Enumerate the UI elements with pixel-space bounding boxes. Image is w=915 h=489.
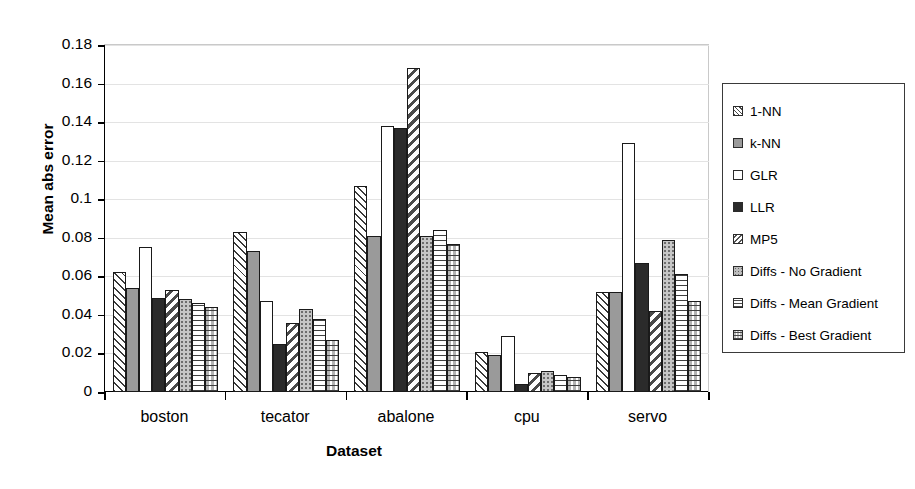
- bar: [126, 288, 139, 392]
- bar: [675, 274, 688, 392]
- bar: [247, 251, 260, 392]
- y-tick-label: 0.1: [28, 189, 92, 207]
- bar: [152, 298, 165, 392]
- legend-swatch-icon: [733, 170, 743, 180]
- bar: [407, 68, 420, 392]
- legend-label: Diffs - Mean Gradient: [750, 296, 878, 311]
- legend-swatch-icon: [733, 234, 743, 244]
- bar: [528, 373, 541, 392]
- y-tick-label: 0.16: [28, 74, 92, 92]
- y-tick-mark: [98, 161, 104, 163]
- bar: [394, 128, 407, 392]
- bars-layer: [105, 45, 708, 392]
- bar: [205, 307, 218, 392]
- legend-label: LLR: [750, 200, 775, 215]
- bar: [447, 244, 460, 392]
- x-group-label-boston: boston: [104, 408, 225, 426]
- y-tick-label: 0.18: [28, 35, 92, 53]
- bar: [554, 375, 567, 392]
- y-tick-mark: [98, 84, 104, 86]
- bar: [113, 272, 126, 392]
- x-tick-mark: [587, 392, 589, 400]
- bar: [541, 371, 554, 392]
- y-tick-mark: [98, 45, 104, 47]
- y-tick-label: 0.12: [28, 151, 92, 169]
- bar: [233, 232, 246, 392]
- bar: [367, 236, 380, 392]
- x-group-label-cpu: cpu: [466, 408, 587, 426]
- legend-item[interactable]: GLR: [733, 159, 904, 191]
- y-tick-mark: [98, 353, 104, 355]
- bar: [649, 311, 662, 392]
- bar: [260, 301, 273, 392]
- bar: [420, 236, 433, 392]
- plot-frame-right: [708, 44, 709, 393]
- bar: [354, 186, 367, 392]
- legend-label: GLR: [750, 168, 778, 183]
- y-tick-label: 0: [28, 382, 92, 400]
- x-axis-title: Dataset: [0, 442, 708, 460]
- x-group-label-abalone: abalone: [346, 408, 467, 426]
- bar: [326, 340, 339, 392]
- legend-label: 1-NN: [750, 104, 782, 119]
- legend-item[interactable]: Diffs - No Gradient: [733, 255, 904, 287]
- bar: [313, 319, 326, 392]
- legend-swatch-icon: [733, 298, 743, 308]
- legend-item[interactable]: 1-NN: [733, 95, 904, 127]
- legend-item[interactable]: MP5: [733, 223, 904, 255]
- legend-label: Diffs - Best Gradient: [750, 328, 871, 343]
- y-tick-label: 0.14: [28, 112, 92, 130]
- x-group-label-tecator: tecator: [225, 408, 346, 426]
- y-tick-label: 0.02: [28, 343, 92, 361]
- legend-swatch-icon: [733, 330, 743, 340]
- y-tick-mark: [98, 276, 104, 278]
- legend-item[interactable]: Diffs - Mean Gradient: [733, 287, 904, 319]
- bar: [609, 292, 622, 392]
- bar: [165, 290, 178, 392]
- bar: [635, 263, 648, 392]
- bar: [192, 303, 205, 392]
- bar: [501, 336, 514, 392]
- y-tick-mark: [98, 315, 104, 317]
- x-tick-mark: [346, 392, 348, 400]
- bar: [381, 126, 394, 392]
- y-tick-mark: [98, 199, 104, 201]
- legend-item[interactable]: k-NN: [733, 127, 904, 159]
- legend-label: MP5: [750, 232, 778, 247]
- bar: [567, 377, 580, 392]
- legend-item[interactable]: Diffs - Best Gradient: [733, 319, 904, 351]
- bar: [139, 247, 152, 392]
- bar: [179, 299, 192, 392]
- x-tick-mark: [225, 392, 227, 400]
- x-tick-mark: [104, 392, 106, 400]
- bar: [488, 355, 501, 392]
- y-tick-mark: [98, 238, 104, 240]
- bar: [662, 240, 675, 392]
- y-tick-mark: [98, 122, 104, 124]
- legend-label: Diffs - No Gradient: [750, 264, 862, 279]
- bar: [273, 344, 286, 392]
- bar: [475, 352, 488, 392]
- x-group-label-servo: servo: [587, 408, 708, 426]
- y-tick-label: 0.06: [28, 266, 92, 284]
- bar: [622, 143, 635, 392]
- legend-label: k-NN: [750, 136, 781, 151]
- legend-swatch-icon: [733, 266, 743, 276]
- legend-swatch-icon: [733, 138, 743, 148]
- bar-chart: 00.020.040.060.080.10.120.140.160.18 Mea…: [0, 0, 915, 489]
- bar: [433, 230, 446, 392]
- legend-item[interactable]: LLR: [733, 191, 904, 223]
- bar: [299, 309, 312, 392]
- legend-swatch-icon: [733, 106, 743, 116]
- x-tick-mark: [708, 392, 710, 400]
- bar: [286, 323, 299, 392]
- y-tick-label: 0.04: [28, 305, 92, 323]
- y-axis-title: Mean abs error: [39, 79, 57, 279]
- bar: [596, 292, 609, 392]
- x-tick-mark: [466, 392, 468, 400]
- y-tick-label: 0.08: [28, 228, 92, 246]
- bar: [688, 301, 701, 392]
- chart-legend: 1-NNk-NNGLRLLRMP5Diffs - No GradientDiff…: [722, 83, 905, 353]
- bar: [515, 384, 528, 392]
- legend-swatch-icon: [733, 202, 743, 212]
